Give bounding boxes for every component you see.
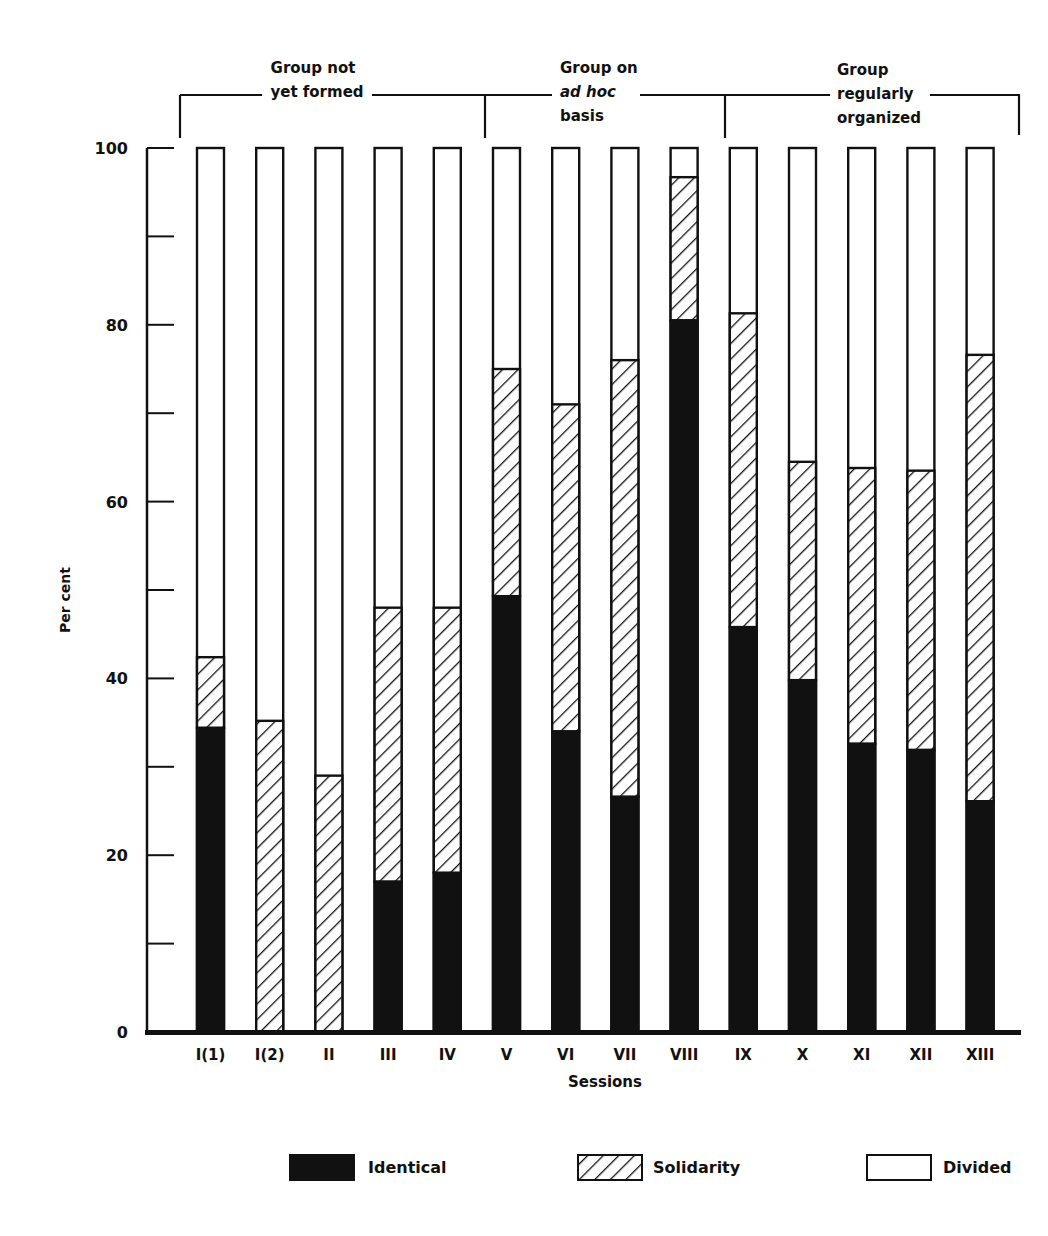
group-labels: Group not yet formed Group on ad hoc bas… [270,59,921,127]
segment-solidarity [967,355,994,801]
segment-identical [552,731,579,1032]
y-tick-label: 60 [106,493,128,512]
segment-solidarity [789,462,816,680]
y-tick-label: 0 [117,1023,128,1042]
x-tick-label: VII [614,1046,637,1064]
bar-VII [611,148,638,1032]
bar-V [493,148,520,1032]
group-label-regular-line1: Group [837,61,889,79]
segment-solidarity [907,471,934,750]
stacked-bar-chart: Group not yet formed Group on ad hoc bas… [0,0,1048,1236]
y-tick-label: 80 [106,316,128,335]
y-axis: 020406080100 [95,139,174,1042]
x-tick-label: XIII [966,1046,994,1064]
y-tick-label: 40 [106,669,128,688]
segment-identical [375,882,402,1032]
segment-identical [493,596,520,1032]
group-label-ad-hoc-line2: ad hoc [560,83,616,101]
segment-identical [197,728,224,1032]
segment-solidarity [493,369,520,596]
segment-solidarity [315,776,342,1032]
bar-II [315,148,342,1032]
group-label-ad-hoc-line1: Group on [560,59,638,77]
bar-XIII [967,148,994,1032]
segment-solidarity [552,404,579,731]
segment-solidarity [611,360,638,797]
bar-VI [552,148,579,1032]
x-tick-label: II [323,1046,334,1064]
segment-solidarity [256,721,283,1032]
x-tick-label: I(1) [196,1046,226,1064]
x-tick-labels: I(1)I(2)IIIIIIVVVIVIIVIIIIXXXIXIIXIII [196,1046,995,1064]
x-tick-label: XII [910,1046,933,1064]
segment-identical [611,797,638,1032]
y-tick-label: 20 [106,846,128,865]
group-label-regular-line3: organized [837,109,921,127]
x-tick-label: III [380,1046,397,1064]
legend: Identical Solidarity Divided [290,1155,1011,1180]
segment-solidarity [197,657,224,728]
x-axis-baseline [145,1030,1021,1035]
x-tick-label: I(2) [255,1046,285,1064]
segment-solidarity [671,177,698,320]
segment-solidarity [730,313,757,627]
bar-X [789,148,816,1032]
x-tick-label: V [501,1046,513,1064]
group-label-regular-line2: regularly [837,85,914,103]
bars [197,148,994,1032]
x-tick-label: X [797,1046,809,1064]
x-tick-label: VIII [670,1046,698,1064]
segment-identical [967,801,994,1032]
segment-solidarity [434,608,461,873]
bar-XI [848,148,875,1032]
y-axis-title: Per cent [57,567,73,633]
group-label-not-formed-line2: yet formed [270,83,363,101]
x-axis-title: Sessions [568,1073,642,1091]
legend-swatch-divided [867,1155,931,1180]
segment-identical [434,873,461,1032]
segment-identical [730,627,757,1032]
bar-IV [434,148,461,1032]
bar-III [375,148,402,1032]
group-label-ad-hoc-line3: basis [560,107,604,125]
segment-identical [671,320,698,1032]
group-label-not-formed-line1: Group not [271,59,356,77]
bar-I(1) [197,148,224,1032]
legend-label-solidarity: Solidarity [653,1158,741,1177]
segment-solidarity [848,468,875,744]
legend-swatch-solidarity [578,1155,642,1180]
bar-I(2) [256,148,283,1032]
bar-XII [907,148,934,1032]
x-tick-label: VI [557,1046,574,1064]
segment-identical [789,680,816,1032]
x-tick-label: XI [853,1046,870,1064]
y-tick-label: 100 [95,139,128,158]
bar-VIII [671,148,698,1032]
legend-label-divided: Divided [943,1158,1011,1177]
segment-solidarity [375,608,402,882]
x-tick-label: IV [439,1046,457,1064]
x-tick-label: IX [735,1046,753,1064]
legend-swatch-identical [290,1155,354,1180]
bar-IX [730,148,757,1032]
segment-identical [907,750,934,1032]
segment-identical [848,744,875,1032]
legend-label-identical: Identical [368,1158,447,1177]
